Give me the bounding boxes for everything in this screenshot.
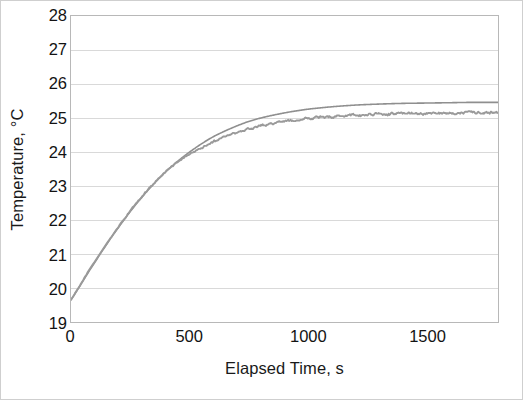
series-line-model xyxy=(71,102,498,300)
y-tick-label: 27 xyxy=(39,41,67,58)
plot-svg xyxy=(71,16,498,322)
y-axis-title: Temperature, °C xyxy=(1,1,35,337)
series-line-measured xyxy=(71,111,498,300)
chart-figure: Temperature, °C 19202122232425262728 050… xyxy=(0,0,523,400)
x-axis-title: Elapsed Time, s xyxy=(70,359,499,378)
y-tick-label: 28 xyxy=(39,7,67,24)
gridlines xyxy=(71,50,498,288)
y-tick-label: 21 xyxy=(39,246,67,263)
x-tick-label: 1500 xyxy=(409,328,446,345)
y-tick-label: 20 xyxy=(39,281,67,298)
y-tick-label: 23 xyxy=(39,178,67,195)
x-tick-label: 1000 xyxy=(290,328,327,345)
x-tick-label: 0 xyxy=(65,328,74,345)
y-tick-label: 22 xyxy=(39,212,67,229)
y-axis-title-text: Temperature, °C xyxy=(9,108,28,230)
y-tick-label: 25 xyxy=(39,109,67,126)
y-tick-label: 26 xyxy=(39,75,67,92)
x-axis-tick-labels: 050010001500 xyxy=(1,328,523,352)
plot-area xyxy=(70,15,499,323)
y-tick-label: 24 xyxy=(39,144,67,161)
x-tick-label: 500 xyxy=(175,328,203,345)
